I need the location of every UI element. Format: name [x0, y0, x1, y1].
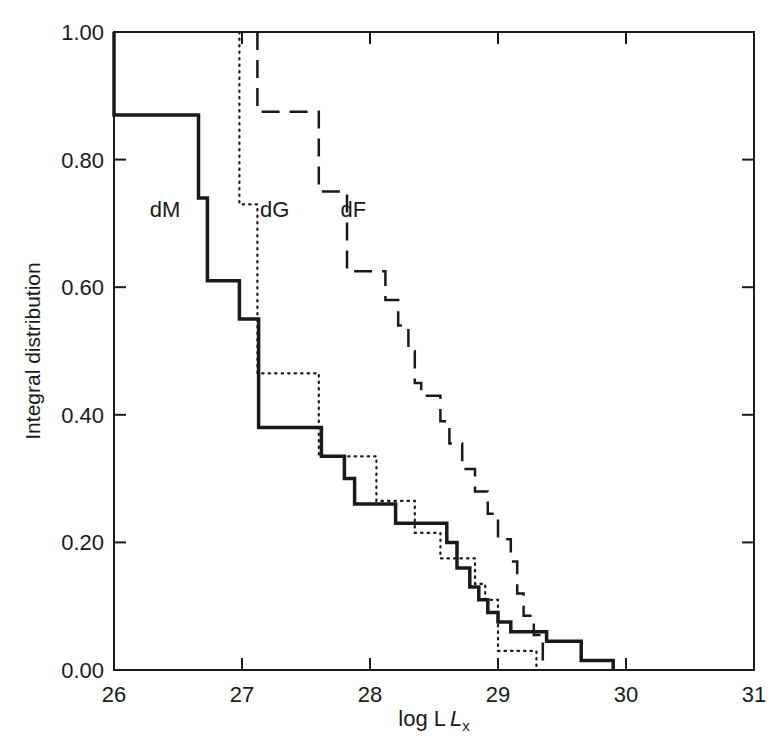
series-dM-line	[114, 32, 613, 670]
x-tick-label: 28	[358, 682, 382, 707]
x-axis-label: log LLx	[398, 706, 470, 734]
series-dG-line	[239, 32, 536, 670]
series-label-dM: dM	[150, 197, 181, 222]
x-tick-label: 29	[486, 682, 510, 707]
series-label-dG: dG	[260, 197, 289, 222]
x-tick-label: 26	[102, 682, 126, 707]
x-axis-label-sub: x	[462, 717, 470, 734]
y-tick-label: 0.00	[61, 658, 104, 683]
x-tick-label: 30	[614, 682, 638, 707]
y-tick-label: 0.60	[61, 275, 104, 300]
y-tick-label: 0.80	[61, 148, 104, 173]
y-tick-label: 0.20	[61, 530, 104, 555]
y-tick-label: 1.00	[61, 20, 104, 45]
y-tick-label: 0.40	[61, 403, 104, 428]
plot-frame	[114, 32, 754, 670]
x-axis-ticks: 262728293031	[102, 32, 766, 707]
series-label-dF: dF	[341, 197, 367, 222]
x-tick-label: 31	[742, 682, 766, 707]
x-tick-label: 27	[230, 682, 254, 707]
integral-distribution-chart: 262728293031 0.000.200.400.600.801.00 dM…	[0, 0, 776, 746]
y-axis-label: Integral distribution	[21, 262, 44, 439]
y-axis-ticks: 0.000.200.400.600.801.00	[61, 20, 754, 683]
series-dF-line	[257, 32, 542, 670]
x-axis-label-var: L	[450, 706, 462, 731]
series-group	[114, 32, 613, 670]
